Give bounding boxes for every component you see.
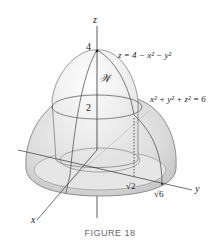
- sphere-equation: x² + y² + z² = 6: [150, 94, 206, 104]
- paraboloid-surface: [52, 50, 138, 168]
- z-tick-4: 4: [86, 41, 91, 52]
- apex-point: [96, 50, 99, 53]
- x-axis-label: x: [31, 214, 35, 225]
- z-axis-label: z: [93, 14, 97, 25]
- figure-diagram: [0, 0, 220, 250]
- sqrt6-label: √6: [154, 189, 163, 199]
- paraboloid-equation: z = 4 − x² − y²: [118, 50, 171, 60]
- region-label: 𝒲: [99, 72, 111, 85]
- sqrt2-label: √2: [126, 181, 135, 191]
- sqrt6-point: [161, 183, 163, 185]
- y-axis-label: y: [195, 183, 199, 194]
- figure-caption: FIGURE 18: [0, 228, 220, 238]
- z-tick-2: 2: [86, 102, 91, 113]
